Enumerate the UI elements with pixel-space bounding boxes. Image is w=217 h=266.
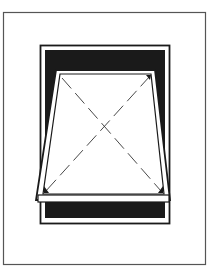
dark-opening-bottom [45, 202, 165, 218]
sash-bottom-rail [38, 195, 169, 202]
window-diagram [0, 0, 217, 266]
window-sash-inner [43, 74, 164, 194]
